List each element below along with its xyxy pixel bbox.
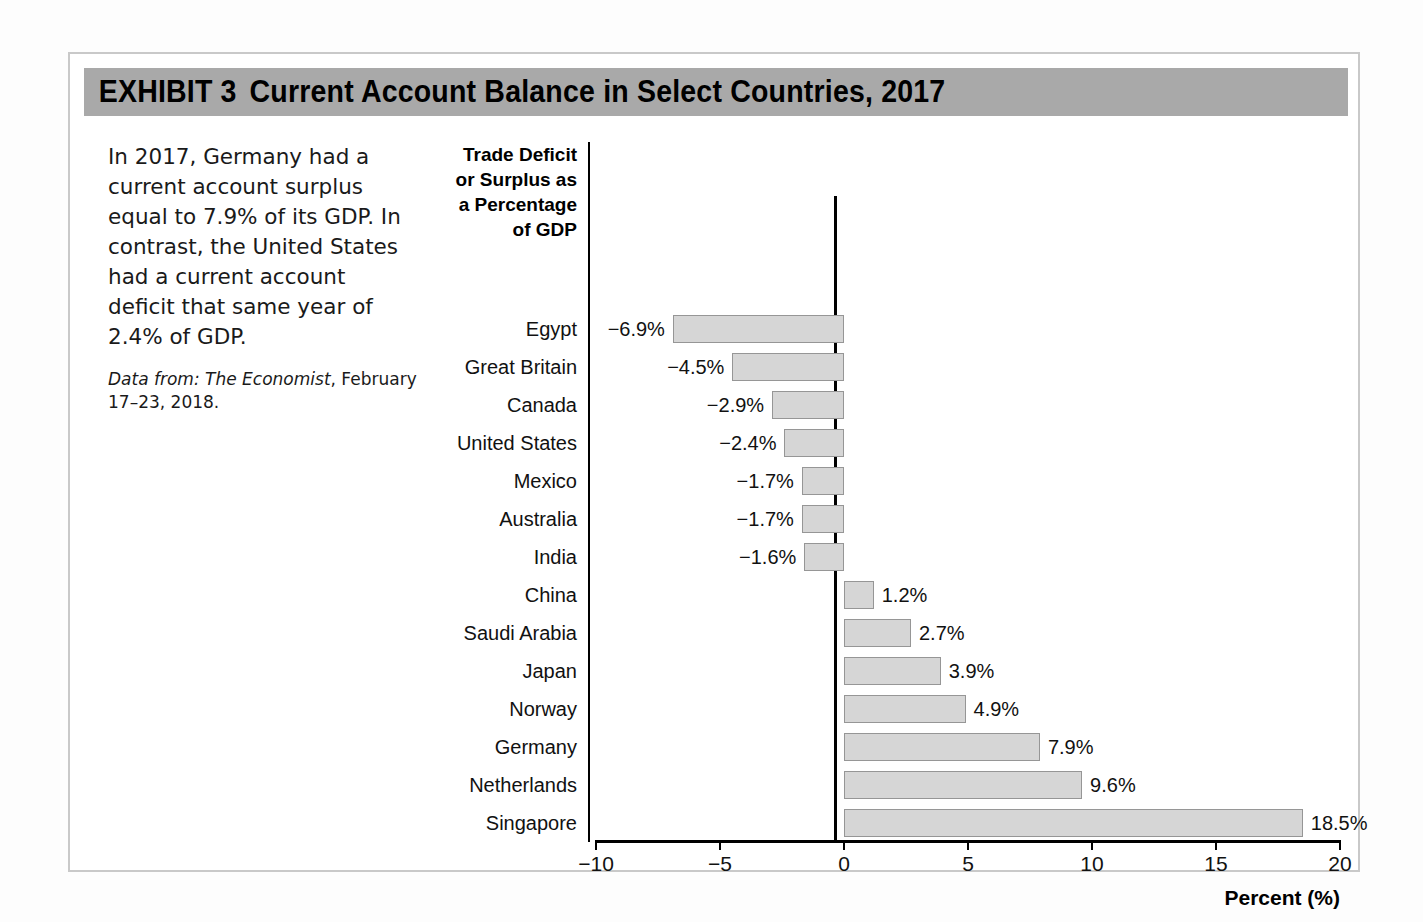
x-axis-tick-label: 5 <box>962 852 974 876</box>
bar-track: 9.6% <box>596 766 1340 804</box>
bar-value-label: −2.9% <box>707 386 764 424</box>
x-axis-tick <box>1215 840 1217 850</box>
x-axis-tick-label: 20 <box>1328 852 1351 876</box>
bar-category-label: Singapore <box>420 804 577 842</box>
bar-track: −1.7% <box>596 500 1340 538</box>
axis-title-line-1: Trade Deficit <box>420 142 577 167</box>
axis-title-line-3: a Percentage <box>420 192 577 217</box>
bar-row: Mexico−1.7% <box>420 462 1340 500</box>
bar <box>844 657 941 685</box>
bar-category-label: Great Britain <box>420 348 577 386</box>
bar-row: Saudi Arabia2.7% <box>420 614 1340 652</box>
bar-chart: Trade Deficit or Surplus as a Percentage… <box>420 134 1340 854</box>
bar-row: Germany7.9% <box>420 728 1340 766</box>
x-axis-label: Percent (%) <box>1224 886 1340 910</box>
bar <box>844 581 874 609</box>
bar-row: Norway4.9% <box>420 690 1340 728</box>
bar-value-label: −2.4% <box>719 424 776 462</box>
bar-row: Japan3.9% <box>420 652 1340 690</box>
bar-track: 3.9% <box>596 652 1340 690</box>
bar-track: 18.5% <box>596 804 1340 842</box>
x-axis-tick-label: 0 <box>838 852 850 876</box>
bar-value-label: 4.9% <box>974 690 1020 728</box>
x-axis-tick <box>1091 840 1093 850</box>
bar-track: 2.7% <box>596 614 1340 652</box>
bar <box>804 543 844 571</box>
bar-track: −2.4% <box>596 424 1340 462</box>
bar-category-label: Egypt <box>420 310 577 348</box>
caption-block: In 2017, Germany had a current account s… <box>108 142 418 414</box>
x-axis-tick-label: −5 <box>708 852 732 876</box>
bar-track: −6.9% <box>596 310 1340 348</box>
caption-source-lead: Data from: The Economist <box>108 369 331 389</box>
bar-value-label: −1.7% <box>737 500 794 538</box>
bar <box>802 467 844 495</box>
bar-category-label: Norway <box>420 690 577 728</box>
bar-row: United States−2.4% <box>420 424 1340 462</box>
bar-category-label: China <box>420 576 577 614</box>
exhibit-title: Current Account Balance in Select Countr… <box>250 74 946 109</box>
bar-value-label: −4.5% <box>667 348 724 386</box>
bar-value-label: 7.9% <box>1048 728 1094 766</box>
bar <box>844 619 911 647</box>
exhibit-container: EXHIBIT 3Current Account Balance in Sele… <box>68 52 1360 872</box>
x-axis-tick <box>719 840 721 850</box>
bar-track: −1.7% <box>596 462 1340 500</box>
bar-rows: Egypt−6.9%Great Britain−4.5%Canada−2.9%U… <box>420 310 1340 842</box>
bar-track: 4.9% <box>596 690 1340 728</box>
bar-track: 1.2% <box>596 576 1340 614</box>
x-axis-tick-label: 10 <box>1080 852 1103 876</box>
bar-track: −2.9% <box>596 386 1340 424</box>
bar <box>844 695 966 723</box>
bar-value-label: 18.5% <box>1311 804 1368 842</box>
bar <box>844 733 1040 761</box>
exhibit-label: EXHIBIT 3 <box>99 74 237 109</box>
caption-body-text: In 2017, Germany had a current account s… <box>108 142 418 352</box>
bar-category-label: Mexico <box>420 462 577 500</box>
caption-source: Data from: The Economist, February 17–23… <box>108 368 418 414</box>
axis-title: Trade Deficit or Surplus as a Percentage… <box>420 142 577 242</box>
bar <box>772 391 844 419</box>
bar-row: China1.2% <box>420 576 1340 614</box>
bar-row: India−1.6% <box>420 538 1340 576</box>
bar-track: 7.9% <box>596 728 1340 766</box>
bar-category-label: Netherlands <box>420 766 577 804</box>
bar <box>844 809 1303 837</box>
bar-row: Netherlands9.6% <box>420 766 1340 804</box>
bar-track: −4.5% <box>596 348 1340 386</box>
bar-row: Canada−2.9% <box>420 386 1340 424</box>
bar-value-label: −1.7% <box>737 462 794 500</box>
bar-row: Australia−1.7% <box>420 500 1340 538</box>
bar-value-label: 2.7% <box>919 614 965 652</box>
bar-value-label: −6.9% <box>608 310 665 348</box>
bar <box>784 429 844 457</box>
bar-category-label: Germany <box>420 728 577 766</box>
bar-value-label: 3.9% <box>949 652 995 690</box>
bar-row: Egypt−6.9% <box>420 310 1340 348</box>
axis-title-line-4: of GDP <box>420 217 577 242</box>
x-axis-tick-label: 15 <box>1204 852 1227 876</box>
x-axis-tick <box>967 840 969 850</box>
exhibit-header-text: EXHIBIT 3Current Account Balance in Sele… <box>84 74 945 110</box>
bar-value-label: 1.2% <box>882 576 928 614</box>
x-axis-tick-label: −10 <box>578 852 614 876</box>
bar-category-label: Australia <box>420 500 577 538</box>
bar-row: Great Britain−4.5% <box>420 348 1340 386</box>
bar <box>844 771 1082 799</box>
x-axis-tick <box>1339 840 1341 850</box>
exhibit-header-bar: EXHIBIT 3Current Account Balance in Sele… <box>84 68 1348 116</box>
bar-category-label: Japan <box>420 652 577 690</box>
bar-value-label: 9.6% <box>1090 766 1136 804</box>
bar-category-label: Canada <box>420 386 577 424</box>
bar <box>673 315 844 343</box>
bar-value-label: −1.6% <box>739 538 796 576</box>
bar <box>802 505 844 533</box>
bar-track: −1.6% <box>596 538 1340 576</box>
x-axis-tick <box>595 840 597 850</box>
bar-category-label: Saudi Arabia <box>420 614 577 652</box>
bar-row: Singapore18.5% <box>420 804 1340 842</box>
bar-category-label: United States <box>420 424 577 462</box>
bar-category-label: India <box>420 538 577 576</box>
axis-title-line-2: or Surplus as <box>420 167 577 192</box>
x-axis-tick <box>843 840 845 850</box>
